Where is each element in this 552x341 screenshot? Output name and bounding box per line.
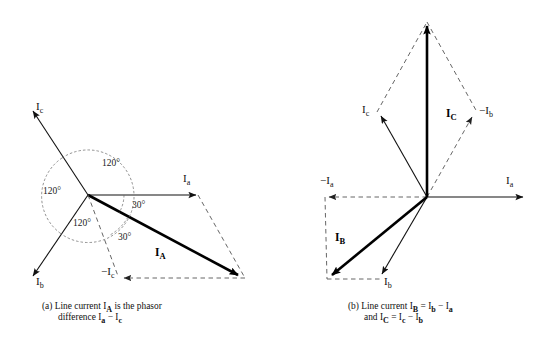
angle-120-left-panel-a: 120° xyxy=(43,186,61,196)
dash-Ic-to-ICtip-panel-b xyxy=(377,22,427,112)
arc-30-Ia-panel-a xyxy=(119,195,124,213)
label-minus-Ic-panel-a: −Ic xyxy=(101,265,115,280)
vector-Ic-panel-a xyxy=(33,111,88,195)
angle-120-top-panel-a: 120° xyxy=(102,158,120,168)
label-IA-panel-a: IA xyxy=(155,246,166,261)
vector-IA-panel-a xyxy=(88,195,238,275)
phasor-figure: Ia Ic Ib IA −Ic 120° 120° 120° 30° 30° (… xyxy=(0,0,552,341)
label-Ib-panel-b: Ib xyxy=(384,275,392,290)
angle-120-bottom-panel-a: 120° xyxy=(73,218,91,228)
dash-minusIa-to-IBtip-panel-b xyxy=(325,197,327,279)
dash-ICtip-to-minusIb-panel-b xyxy=(427,22,477,112)
vector-Ib-panel-a xyxy=(33,195,88,276)
caption-b-line2: and IC = Ic − Ib xyxy=(364,312,424,325)
vector-Ib-panel-b xyxy=(382,197,427,274)
label-IB-panel-b: IB xyxy=(335,231,345,246)
angle-30-Ia-panel-a: 30° xyxy=(132,200,146,210)
label-Ia-panel-b: Ia xyxy=(506,174,514,189)
vector-Ic-panel-b xyxy=(381,116,427,197)
angle-30-IA-panel-a: 30° xyxy=(118,232,132,242)
vector-minus-Ib-panel-b xyxy=(427,117,472,197)
label-Ic-panel-a: Ic xyxy=(36,100,44,115)
label-Ic-panel-b: Ic xyxy=(362,103,370,118)
panel-b: Ia Ic Ib −Ia −Ib IC IB (b) Line current … xyxy=(320,22,523,325)
label-Ib-panel-a: Ib xyxy=(36,275,44,290)
label-Ia-panel-a: Ia xyxy=(183,172,191,187)
label-minus-Ia-panel-b: −Ia xyxy=(320,174,334,189)
vector-IB-panel-b xyxy=(332,197,427,275)
caption-a-line2: difference Ia − Ic xyxy=(58,312,122,325)
panel-a: Ia Ic Ib IA −Ic 120° 120° 120° 30° 30° (… xyxy=(33,100,245,325)
label-IC-panel-b: IC xyxy=(446,107,457,122)
label-minus-Ib-panel-b: −Ib xyxy=(479,104,493,119)
